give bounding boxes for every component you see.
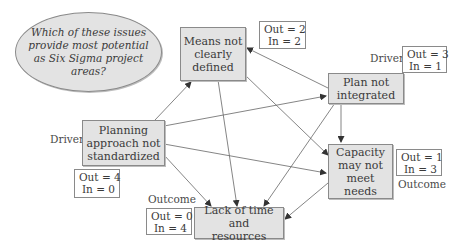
stat-planning: Out = 4 In = 0 — [74, 169, 120, 198]
in-count: In = 4 — [151, 222, 187, 234]
planning-role-label: Driver — [50, 133, 84, 145]
edge-plan-lack — [264, 103, 335, 206]
node-means-not-clearly-defined: Means not clearly defined — [180, 27, 246, 81]
plan-role-label: Driver — [370, 52, 404, 64]
lack-role-label: Outcome — [148, 193, 196, 205]
capacity-role-label: Outcome — [398, 178, 446, 190]
edge-capacity-lack — [285, 183, 328, 219]
stat-capacity: Out = 1 In = 3 — [396, 149, 442, 176]
edge-means-lack — [218, 80, 237, 206]
edge-means-capacity — [245, 75, 328, 155]
in-count: In = 2 — [264, 35, 301, 47]
stat-plan: Out = 3 In = 1 — [402, 46, 447, 73]
in-count: In = 1 — [407, 60, 442, 72]
out-count: Out = 2 — [264, 23, 301, 35]
in-count: In = 3 — [401, 163, 437, 175]
out-count: Out = 4 — [79, 171, 115, 183]
node-plan-not-integrated: Plan not integrated — [328, 73, 404, 104]
edge-planning-means — [155, 82, 191, 120]
interrelationship-digraph: Which of these issues provide most poten… — [0, 0, 456, 252]
node-planning-approach-not-standardized: Planning approach not standardized — [82, 120, 165, 166]
edge-planning-plan — [164, 96, 326, 126]
edge-planning-capacity — [164, 144, 326, 173]
in-count: In = 0 — [79, 183, 115, 195]
stat-lack: Out = 0 In = 4 — [146, 208, 192, 235]
out-count: Out = 0 — [151, 210, 187, 222]
stat-means: Out = 2 In = 2 — [259, 21, 306, 49]
out-count: Out = 1 — [401, 151, 437, 163]
node-capacity-may-not-meet-needs: Capacity may not meet needs — [328, 144, 393, 199]
node-lack-of-time-and-resources: Lack of time and resources — [194, 207, 284, 239]
edge-plan-means — [247, 48, 328, 88]
out-count: Out = 3 — [407, 48, 442, 60]
question-ellipse: Which of these issues provide most poten… — [15, 12, 162, 92]
